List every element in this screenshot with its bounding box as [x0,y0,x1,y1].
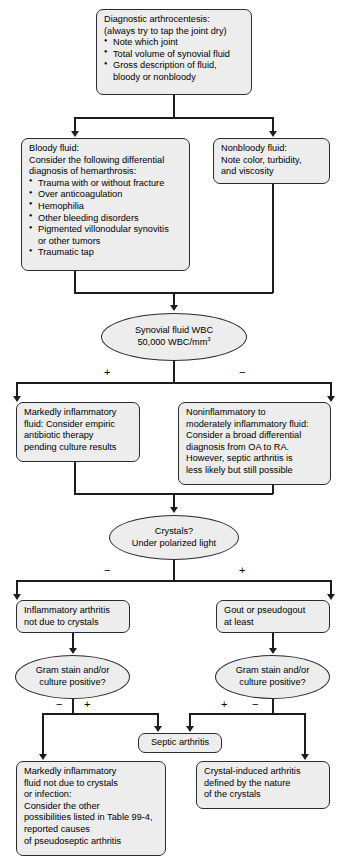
node-line: Synovial fluid WBC [135,325,213,337]
node-nonbloody-fluid: Nonbloody fluid: Note color, turbidity, … [213,138,330,184]
connector-split-bar [189,713,305,715]
arrow-head [71,131,79,137]
branch-sign-minus: − [252,698,258,710]
node-line: Markedly inflammatory [24,766,159,778]
connector-stem [173,361,175,383]
node-line: or infection: [24,789,159,801]
node-line: Markedly inflammatory [24,407,133,419]
node-inflammatory-arthritis: Inflammatory arthritis not due to crysta… [16,600,130,633]
node-synovial-wbc-decision: Synovial fluid WBC 50,000 WBC/mm3 [101,313,247,361]
node-line: Septic arthritis [143,737,217,749]
connector-branch-right [304,713,306,756]
node-noninflammatory-fluid: Noninflammatory to moderately inflammato… [178,402,331,485]
wbc-superscript: 3 [207,336,210,342]
node-line: Gout or pseudogout [224,605,323,617]
connector-stem [72,699,74,714]
node-line: Gram stain and/or [236,665,310,677]
arrow-head [186,726,194,732]
flowchart-canvas: Diagnostic arthrocentesis: (always try t… [0,0,347,868]
arrow-head [13,396,21,402]
node-line: Consider a broad differential [186,430,324,442]
arrow-head [13,594,21,600]
wbc-value: 50,000 WBC/mm [137,337,207,347]
arrow-head [269,648,277,654]
node-line: of pseudoseptic arthritis [24,836,159,848]
node-line: Noninflammatory to [186,407,324,419]
node-line: possibilities listed in Table 99-4, [24,812,159,824]
connector-stem [173,95,175,118]
branch-sign-minus: − [239,366,245,378]
node-line: of the crystals [204,789,323,801]
node-line: Nonbloody fluid: [221,143,323,155]
node-crystals-decision: Crystals? Under polarized light [109,515,239,560]
node-line: defined by the nature [204,778,323,790]
node-diagnostic-arthrocentesis: Diagnostic arthrocentesis: (always try t… [96,9,252,95]
node-septic-arthritis: Septic arthritis [138,733,222,753]
node-gram-stain-left: Gram stain and/or culture positive? [15,655,130,699]
node-bullet: Hemophilia [29,201,183,213]
branch-sign-plus: + [84,698,90,710]
node-line: (always try to tap the joint dry) [104,26,245,38]
branch-sign-plus: + [104,366,110,378]
arrow-head [39,754,47,760]
node-line: Crystals? [155,526,193,538]
node-markedly-inflammatory-fluid: Markedly inflammatory fluid: Consider em… [16,402,140,462]
node-line: pending culture results [24,442,133,454]
node-bullet: Gross description of fluid, [104,60,245,72]
node-line: culture positive? [239,677,305,689]
node-bullet: Total volume of synovial fluid [104,49,245,61]
node-bloody-fluid: Bloody fluid: Consider the following dif… [21,138,190,271]
node-line: not due to crystals [24,617,123,629]
node-gram-stain-right: Gram stain and/or culture positive? [215,655,330,699]
node-crystal-induced-arthritis: Crystal-induced arthritis defined by the… [196,761,330,809]
node-pseudoseptic-arthritis: Markedly inflammatory fluid not due to c… [16,761,166,856]
node-line: Note color, turbidity, [221,155,323,167]
node-line: or other tumors [29,236,183,248]
branch-sign-plus: + [239,564,245,576]
node-bullet: Pigmented villonodular synovitis [29,224,183,236]
branch-sign-minus: − [104,564,110,576]
node-line: reported causes [24,824,159,836]
connector-stem [272,699,274,714]
node-line: moderately inflammatory fluid: [186,419,324,431]
node-line: Inflammatory arthritis [24,605,123,617]
branch-sign-minus: − [56,698,62,710]
node-line: Under polarized light [132,538,216,550]
node-line: Crystal-induced arthritis [204,766,323,778]
node-line: Gram stain and/or [36,665,110,677]
connector-branch-left [42,713,44,756]
arrow-head [154,726,162,732]
node-gout-pseudogout: Gout or pseudogout at least [216,600,330,633]
node-line: Consider the other [24,801,159,813]
node-line: diagnosis of hemarthrosis: [29,166,183,178]
node-line: culture positive? [39,677,105,689]
node-bullet: Other bleeding disorders [29,213,183,225]
node-line: fluid not due to crystals [24,778,159,790]
node-line: Bloody fluid: [29,143,183,155]
connector-merge-left-stem [74,271,76,293]
node-line: diagnosis from OA to RA. [186,442,324,454]
connector-split-bar [74,117,273,119]
connector-merge-left-stem [74,462,76,494]
arrow-head [170,507,178,513]
node-line: 50,000 WBC/mm3 [137,337,210,349]
node-line: and viscosity [221,166,323,178]
node-line: Diagnostic arthrocentesis: [104,14,245,26]
node-bullet: Traumatic tap [29,247,183,259]
node-line: Consider the following differential [29,155,183,167]
arrow-head [301,754,309,760]
node-line: fluid: Consider empiric [24,419,133,431]
connector-split-bar [16,580,331,582]
connector-split-bar [16,382,331,384]
node-bullet: Over anticoagulation [29,189,183,201]
connector-merge-right-stem [272,184,274,293]
node-line: at least [224,617,323,629]
connector-stem [173,560,175,581]
arrow-head [170,305,178,311]
arrow-head [327,396,335,402]
arrow-head [69,648,77,654]
arrow-head [327,594,335,600]
connector-split-bar [42,713,158,715]
node-line: antibiotic therapy [24,430,133,442]
arrow-head [269,131,277,137]
